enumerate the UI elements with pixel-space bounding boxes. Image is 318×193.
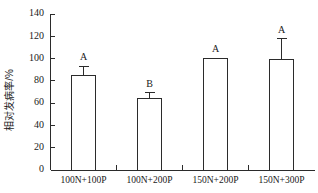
y-tick-label-0: 0 (39, 163, 44, 174)
y-tick-label-100: 100 (29, 52, 44, 63)
significance-letter-3: A (278, 24, 286, 35)
x-tick-label-2: 150N+200P (192, 175, 238, 185)
chart-figure: 相对发病率/% 0 20 40 60 80 100 120 140 (0, 0, 318, 193)
bar-0 (72, 75, 96, 170)
bar-3 (270, 59, 294, 170)
y-tick-label-20: 20 (34, 141, 44, 152)
x-tick-label-1: 100N+200P (126, 175, 172, 185)
y-tick-label-120: 120 (29, 30, 44, 41)
x-tick-label-3: 150N+300P (258, 175, 304, 185)
x-tick-label-0: 100N+100P (60, 175, 106, 185)
bar-2 (204, 59, 228, 171)
significance-letter-2: A (212, 43, 220, 54)
significance-letter-1: B (146, 78, 153, 89)
bar-chart: 相对发病率/% 0 20 40 60 80 100 120 140 (0, 0, 318, 193)
y-tick-label-60: 60 (34, 96, 44, 107)
y-axis-label: 相对发病率/% (3, 69, 15, 131)
y-tick-label-80: 80 (34, 74, 44, 85)
y-tick-label-40: 40 (34, 119, 44, 130)
significance-letter-0: A (80, 51, 88, 62)
y-tick-label-140: 140 (29, 7, 44, 18)
bar-1 (138, 98, 162, 170)
